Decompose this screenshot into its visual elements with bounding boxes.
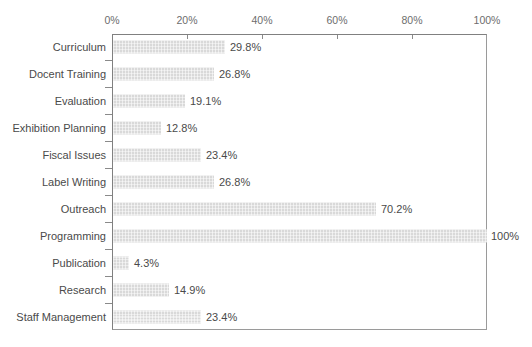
horizontal-bar-chart: 0% 20% 40% 60% 80% 100% Curriculum 29.8%…	[0, 0, 532, 347]
bar-curriculum	[113, 41, 225, 54]
bar-staff-management	[113, 311, 201, 324]
bar-publication	[113, 257, 129, 270]
x-axis-tick-label: 100%	[474, 14, 501, 26]
y-axis-tick-mark	[105, 249, 112, 250]
value-label-outreach: 70.2%	[381, 203, 412, 215]
bar-outreach	[113, 203, 376, 216]
y-axis-tick-mark	[105, 114, 112, 115]
x-axis-tick-label: 60%	[326, 14, 347, 26]
value-label-exhibition-planning: 12.8%	[166, 122, 197, 134]
category-label-programming: Programming	[40, 230, 106, 242]
y-axis-tick-mark	[105, 222, 112, 223]
category-label-outreach: Outreach	[61, 203, 106, 215]
category-label-fiscal-issues: Fiscal Issues	[42, 149, 106, 161]
value-label-publication: 4.3%	[134, 257, 159, 269]
value-label-curriculum: 29.8%	[230, 41, 261, 53]
bar-label-writing	[113, 176, 214, 189]
y-axis-tick-mark	[105, 60, 112, 61]
y-axis-tick-mark	[105, 276, 112, 277]
category-label-label-writing: Label Writing	[42, 176, 106, 188]
y-axis-tick-mark	[105, 87, 112, 88]
bar-docent-training	[113, 68, 214, 81]
x-axis-tick-label: 0%	[104, 14, 119, 26]
y-axis-tick-mark	[105, 195, 112, 196]
value-label-research: 14.9%	[174, 284, 205, 296]
x-axis-tick-label: 20%	[176, 14, 197, 26]
bar-evaluation	[113, 95, 185, 108]
x-axis-tick-label: 80%	[401, 14, 422, 26]
category-label-staff-management: Staff Management	[16, 311, 106, 323]
category-label-exhibition-planning: Exhibition Planning	[12, 122, 106, 134]
y-axis-tick-mark	[105, 141, 112, 142]
x-axis-tick-label: 40%	[251, 14, 272, 26]
bar-fiscal-issues	[113, 149, 201, 162]
category-label-evaluation: Evaluation	[55, 95, 106, 107]
y-axis-tick-mark	[105, 168, 112, 169]
value-label-docent-training: 26.8%	[219, 68, 250, 80]
value-label-programming: 100%	[491, 230, 519, 242]
category-label-research: Research	[59, 284, 106, 296]
bar-exhibition-planning	[113, 122, 161, 135]
value-label-staff-management: 23.4%	[206, 311, 237, 323]
category-label-publication: Publication	[52, 257, 106, 269]
y-axis-tick-mark	[105, 303, 112, 304]
category-label-docent-training: Docent Training	[29, 68, 106, 80]
bar-programming	[113, 230, 487, 243]
value-label-fiscal-issues: 23.4%	[206, 149, 237, 161]
category-label-curriculum: Curriculum	[53, 41, 106, 53]
value-label-label-writing: 26.8%	[219, 176, 250, 188]
value-label-evaluation: 19.1%	[190, 95, 221, 107]
bar-research	[113, 284, 169, 297]
